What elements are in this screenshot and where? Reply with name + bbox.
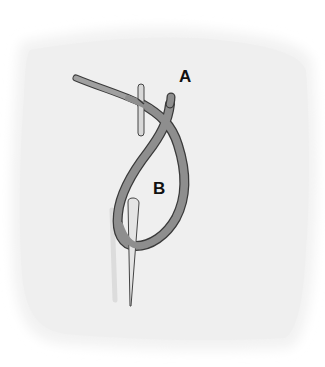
label-a: A: [179, 68, 191, 85]
pin: [138, 84, 144, 136]
label-b: B: [153, 180, 165, 197]
stitch-illustration: A B: [0, 0, 325, 367]
